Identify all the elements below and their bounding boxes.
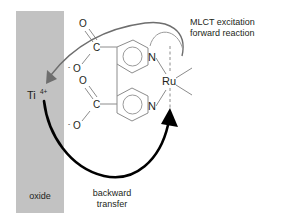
upper-anionic-oxygen-charge: - [68,63,70,70]
forward-annotation-line2: forward reaction [190,28,255,38]
upper-c-anion-oxygen-bond [82,54,90,64]
lower-carbonyl-oxygen-label: O [79,75,87,86]
lower-c-anion-oxygen-bond [82,111,90,121]
ti-label: Ti [27,89,36,101]
ti-charge-label: 4+ [40,88,48,95]
upper-pyridine-ring [117,40,148,73]
upper-carboxyl-carbon-label: C [93,42,100,53]
backward-annotation-line1: backward [93,188,132,198]
mechanism-diagram: oxide Ti 4+ N N C O O - C [0,0,285,221]
oxide-slab [16,11,64,213]
lower-anionic-oxygen-charge: - [68,120,70,127]
backward-annotation-line2: transfer [97,199,128,209]
lower-nitrogen-label: N [148,100,156,112]
ligand-arc-detail [150,32,183,50]
ru-ligand-bond-lower-right [176,85,192,95]
ru-ligand-bond-upper-right [176,68,192,78]
upper-nitrogen-label: N [148,51,156,63]
upper-ring-aromatic-circle [123,47,142,66]
oxide-label: oxide [29,191,51,201]
backward-transfer-arrowhead [161,108,178,127]
lower-carboxyl-carbon-label: C [93,99,100,110]
upper-anionic-oxygen-label: O [73,63,81,74]
lower-n-ru-bond [156,90,166,106]
forward-annotation-line1: MLCT excitation [190,17,255,27]
lower-ring-aromatic-circle [123,95,142,114]
lower-pyridine-ring [117,88,148,121]
upper-n-ru-bond [156,58,166,74]
lower-anionic-oxygen-label: O [73,120,81,131]
ruthenium-label: Ru [162,75,176,87]
diagram-canvas: oxide Ti 4+ N N C O O - C [0,0,285,221]
upper-carbonyl-oxygen-label: O [79,18,87,29]
